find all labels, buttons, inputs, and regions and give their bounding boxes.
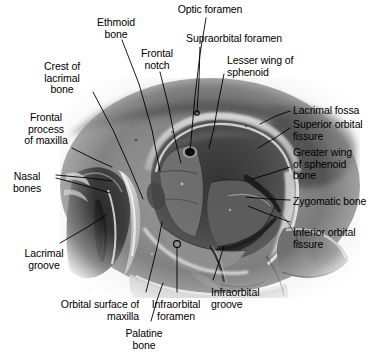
orbit-anatomy-figure: Optic foramenEthmoid boneSupraorbital fo… <box>0 0 389 359</box>
label-lesser-wing-sphenoid: Lesser wing of sphenoid <box>227 55 293 78</box>
label-superior-orbital-fissure: Superior orbital fissure <box>293 119 363 142</box>
label-crest-lacrimal-bone: Crest of lacrimal bone <box>2 61 122 96</box>
label-greater-wing-sphenoid: Greater wing of sphenoid bone <box>293 147 352 182</box>
label-ethmoid-bone: Ethmoid bone <box>56 17 176 40</box>
label-frontal-process-maxilla: Frontal process of maxilla <box>0 112 106 147</box>
label-zygomatic-bone: Zygomatic bone <box>293 196 366 208</box>
label-infraorbital-foramen: Infraorbital foramen <box>116 299 236 322</box>
label-lacrimal-fossa: Lacrimal fossa <box>293 105 359 117</box>
label-supraorbital-foramen: Supraorbital foramen <box>186 33 282 45</box>
label-inferior-orbital-fissure: Inferior orbital fissure <box>293 227 356 250</box>
label-nasal-bones: Nasal bones <box>0 171 87 194</box>
label-palatine-bone: Palatine bone <box>84 328 204 351</box>
label-lacrimal-groove: Lacrimal groove <box>0 248 104 271</box>
label-optic-foramen: Optic foramen <box>150 4 270 16</box>
